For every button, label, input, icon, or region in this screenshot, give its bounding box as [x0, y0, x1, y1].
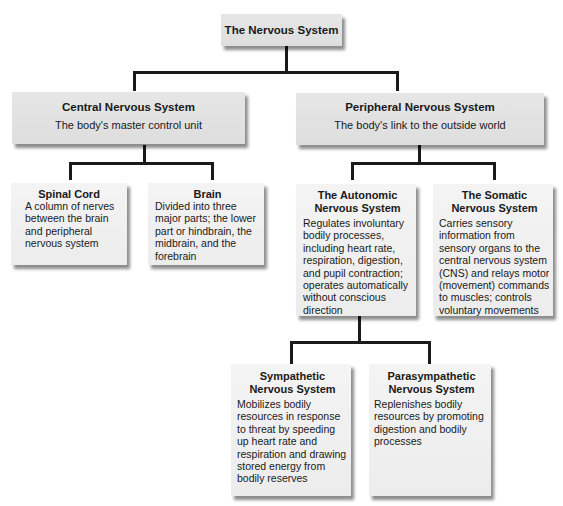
- node-parasympathetic-nervous-system: Parasympathetic Nervous System Replenish…: [369, 364, 491, 496]
- node-description: Divided into three major parts; the lowe…: [155, 200, 260, 262]
- node-title-line1: Sympathetic: [237, 370, 348, 383]
- connector-autonomic-down: [358, 316, 361, 342]
- node-sympathetic-nervous-system: Sympathetic Nervous System Mobilizes bod…: [231, 364, 351, 496]
- node-title: Brain: [155, 188, 260, 200]
- node-description: A column of nerves between the brain and…: [25, 200, 121, 250]
- node-title: Central Nervous System: [12, 101, 245, 113]
- connector-to-spinal: [69, 162, 72, 180]
- node-subtitle: The body's master control unit: [12, 119, 245, 131]
- node-description: Carries sensory information from sensory…: [439, 217, 550, 316]
- node-nervous-system: The Nervous System: [221, 14, 342, 46]
- node-title-line1: Parasympathetic: [374, 370, 489, 383]
- node-description: Regulates involuntary bodily processes, …: [303, 217, 412, 316]
- node-title-line1: The Somatic: [439, 189, 550, 202]
- node-title: Peripheral Nervous System: [296, 101, 544, 113]
- node-title-line1: The Autonomic: [303, 189, 412, 202]
- connector-to-somatic: [493, 162, 496, 180]
- connector-to-brain: [211, 162, 214, 180]
- node-somatic-nervous-system: The Somatic Nervous System Carries senso…: [433, 184, 553, 316]
- connector-root-down: [285, 46, 288, 72]
- node-title-line2: Nervous System: [237, 383, 348, 396]
- node-subtitle: The body's link to the outside world: [296, 119, 544, 131]
- connector-to-pns: [396, 71, 399, 91]
- node-central-nervous-system: Central Nervous System The body's master…: [12, 92, 245, 144]
- connector-cns-down: [143, 145, 146, 163]
- connector-to-parasympathetic: [428, 341, 431, 365]
- node-title-line2: Nervous System: [303, 202, 412, 215]
- node-title: Spinal Cord: [17, 188, 121, 200]
- connector-to-sympathetic: [290, 341, 293, 365]
- node-autonomic-nervous-system: The Autonomic Nervous System Regulates i…: [296, 184, 416, 316]
- connector-to-cns: [133, 71, 136, 91]
- connector-level1-horizontal: [133, 71, 398, 74]
- node-title: The Nervous System: [221, 14, 342, 46]
- node-description: Mobilizes bodily resources in response t…: [237, 398, 348, 485]
- node-description: Replenishes bodily resources by promotin…: [374, 398, 489, 448]
- connector-level2-right-horizontal: [351, 162, 495, 165]
- connector-pns-down: [418, 145, 421, 163]
- node-spinal-cord: Spinal Cord A column of nerves between t…: [11, 183, 127, 265]
- connector-to-autonomic: [351, 162, 354, 180]
- node-title-line2: Nervous System: [439, 202, 550, 215]
- connector-level2-left-horizontal: [69, 162, 213, 165]
- node-brain: Brain Divided into three major parts; th…: [148, 183, 264, 265]
- connector-level3-horizontal: [290, 341, 430, 344]
- node-peripheral-nervous-system: Peripheral Nervous System The body's lin…: [296, 93, 544, 145]
- node-title-line2: Nervous System: [374, 383, 489, 396]
